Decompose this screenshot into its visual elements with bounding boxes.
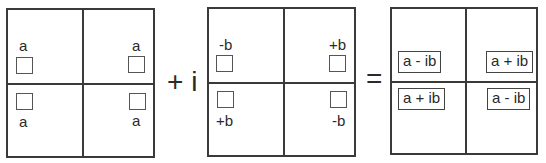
matrix-a-top-left-square <box>16 57 33 74</box>
matrix-result-vertical-divider <box>465 9 467 153</box>
result-top-left-entry: a - ib <box>398 51 441 73</box>
matrix-b-bottom-left-label: +b <box>216 113 233 129</box>
result-bottom-right-entry: a - ib <box>487 88 530 110</box>
matrix-b-bottom-right-square <box>330 91 347 108</box>
matrix-b-bottom-right-label: -b <box>332 113 345 129</box>
matrix-b-vertical-divider <box>283 9 285 155</box>
matrix-a-bottom-left-label: a <box>19 114 27 130</box>
result-bottom-left-entry: a + ib <box>398 88 445 110</box>
result-top-right-entry: a + ib <box>486 51 533 73</box>
matrix-result <box>390 7 538 155</box>
matrix-a-top-right-label: a <box>132 38 140 54</box>
matrix-b <box>207 7 356 157</box>
matrix-a-vertical-divider <box>82 10 84 156</box>
matrix-result-horizontal-divider <box>392 81 536 83</box>
matrix-a-horizontal-divider <box>8 83 153 85</box>
plus-i-operator: + i <box>167 67 197 97</box>
matrix-b-top-right-square <box>329 55 346 72</box>
equals-operator: = <box>366 64 382 94</box>
matrix-a-bottom-right-label: a <box>132 113 140 129</box>
matrix-b-horizontal-divider <box>209 82 354 84</box>
matrix-a-top-right-square <box>128 56 145 73</box>
matrix-b-top-right-label: +b <box>329 37 346 53</box>
matrix-a-top-left-label: a <box>19 38 27 54</box>
matrix-b-top-left-square <box>216 55 233 72</box>
matrix-a-bottom-right-square <box>129 93 146 110</box>
matrix-b-bottom-left-square <box>217 91 234 108</box>
matrix-b-top-left-label: -b <box>219 37 232 53</box>
matrix-a <box>6 8 155 158</box>
matrix-a-bottom-left-square <box>16 93 33 110</box>
